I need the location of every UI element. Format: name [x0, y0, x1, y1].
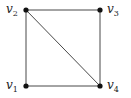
node-label-v3: v3 — [107, 3, 119, 18]
node-v4 — [97, 83, 102, 88]
node-v3 — [97, 7, 102, 12]
node-label-v1: v1 — [6, 79, 18, 94]
node-label-v4: v4 — [107, 79, 119, 94]
graph-diagram: v1v2v3v4 — [0, 0, 131, 98]
node-label-v2: v2 — [6, 3, 18, 18]
node-v2 — [23, 7, 28, 12]
edge-v2-v4 — [26, 10, 100, 86]
node-v1 — [23, 83, 28, 88]
